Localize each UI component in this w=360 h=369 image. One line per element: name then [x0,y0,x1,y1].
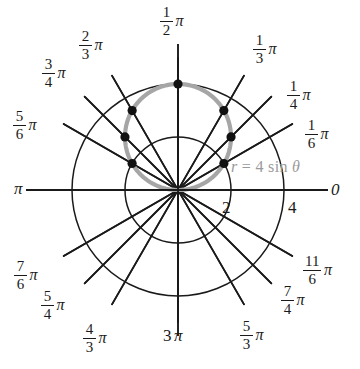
fraction-denominator: 3 [254,51,266,66]
pi-symbol: π [30,267,38,283]
fraction: 23 [79,29,92,62]
fraction-numerator: 1 [288,79,300,94]
fraction-denominator: 6 [306,272,318,287]
pi-symbol: π [324,262,332,278]
fraction-numerator: 5 [42,289,54,304]
data-point-theta-150 [128,159,137,168]
angle-label-3-over-4-pi: 34π [42,56,66,90]
equation-function: sin [268,158,288,175]
pi-symbol: π [321,126,329,142]
angle-label-7-over-4-pi: 74π [281,283,305,317]
angle-label-zero: 0 [331,181,340,198]
fraction-denominator: 6 [15,277,27,292]
angle-label-11-over-6-pi: 116π [303,253,332,287]
angle-label-7-over-6-pi: 76π [14,258,38,292]
fraction-numerator: 1 [254,33,266,48]
angle-label-5-over-6-pi: 56π [13,108,37,142]
angle-label-pi: π [14,180,23,197]
fraction: 43 [83,322,96,355]
fraction: 16 [305,118,318,151]
fraction: 74 [281,284,294,317]
angle-label-1-over-4-pi: 14π [287,78,311,112]
pi-symbol: π [29,117,37,133]
equation-annotation: r = 4 sin θ [231,159,300,175]
data-point-theta-30 [219,159,228,168]
angle-label-4-over-3-pi: 43π [83,321,107,355]
pi-symbol: π [95,37,103,53]
pi-symbol: π [297,292,305,308]
fraction: 76 [14,259,27,292]
polar-plot-figure: 12π13π14π16π23π34π56π76π54π43π53π74π116π… [0,0,360,369]
pi-symbol: π [256,327,264,343]
equation-coefficient: 4 [255,158,263,175]
equation-equals: = [242,158,251,175]
fraction-denominator: 4 [42,307,54,322]
fraction-denominator: 3 [80,47,92,62]
fraction: 116 [303,254,321,287]
pi-symbol: π [269,41,277,57]
fraction-denominator: 3 [241,337,253,352]
fraction: 14 [287,79,300,112]
fraction: 12 [160,5,173,38]
fraction-denominator: 4 [288,97,300,112]
equation-variable: θ [292,158,300,175]
fraction-denominator: 4 [282,302,294,317]
fraction-denominator: 4 [43,75,55,90]
radial-tick-label-4: 4 [288,199,297,216]
equation-r: r [231,158,238,175]
pi-symbol: π [57,297,65,313]
fraction-denominator: 3 [84,340,96,355]
radial-tick-label-2: 2 [222,199,231,216]
data-point-theta-45 [226,132,235,141]
angle-label-bottom-pi: π [174,327,183,344]
data-point-theta-135 [120,132,129,141]
data-point-theta-120 [128,106,137,115]
angle-label-1-over-2-pi: 12π [160,4,184,38]
angle-label-1-over-6-pi: 16π [305,117,329,151]
fraction-numerator: 11 [303,254,321,269]
fraction-numerator: 1 [306,118,318,133]
fraction-numerator: 7 [282,284,294,299]
fraction: 34 [42,57,55,90]
pi-symbol: π [176,13,184,29]
angle-label-5-over-4-pi: 54π [41,288,65,322]
fraction: 56 [13,109,26,142]
fraction-numerator: 7 [15,259,27,274]
fraction: 53 [240,319,253,352]
angle-label-1-over-3-pi: 13π [253,32,277,66]
fraction-numerator: 1 [161,5,173,20]
fraction-denominator: 6 [14,127,26,142]
angle-label-three-halves-pi: 3 π [163,327,183,344]
fraction-numerator: 5 [241,319,253,334]
fraction-numerator: 4 [84,322,96,337]
pi-symbol: π [58,65,66,81]
angle-label-5-over-3-pi: 53π [240,318,264,352]
pi-symbol: π [303,87,311,103]
angle-label-bottom-numeral: 3 [163,327,172,344]
fraction-denominator: 6 [306,136,318,151]
angle-label-2-over-3-pi: 23π [79,28,103,62]
fraction-numerator: 3 [43,57,55,72]
pi-symbol: π [99,330,107,346]
fraction: 54 [41,289,54,322]
fraction-numerator: 2 [80,29,92,44]
fraction-denominator: 2 [161,23,173,38]
fraction-numerator: 5 [14,109,26,124]
data-point-theta-90 [173,79,182,88]
data-point-theta-60 [219,106,228,115]
fraction: 13 [253,33,266,66]
